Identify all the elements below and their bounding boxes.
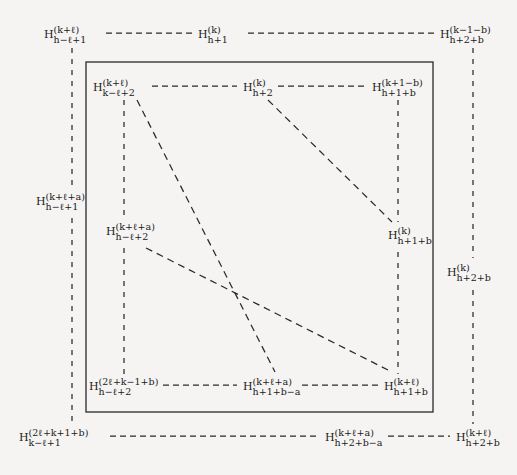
node-outer-top-mid: H(k)h+1 (198, 25, 228, 44)
dashed-diagonal-edges (137, 100, 392, 372)
node-base-symbol: H (106, 225, 116, 238)
node-index-stack: (k+ℓ+a)h−ℓ+2 (116, 222, 155, 241)
node-subscript: k−ℓ+2 (103, 88, 135, 98)
node-subscript: h+1+b−a (253, 387, 301, 397)
node-outer-mid-right: H(k)h+2+b (447, 263, 491, 282)
node-inner-bottom-mid: H(k+ℓ+a)h+1+b−a (243, 377, 300, 396)
commutative-diagram-canvas (0, 0, 517, 475)
node-inner-mid-left: H(k+ℓ+a)h−ℓ+2 (106, 222, 155, 241)
node-base-symbol: H (388, 229, 398, 242)
node-index-stack: (k)h+1+b (398, 226, 432, 245)
node-index-stack: (k+ℓ)h−ℓ+1 (54, 25, 87, 44)
node-inner-top-left: H(k+ℓ)k−ℓ+2 (93, 78, 135, 97)
node-base-symbol: H (325, 431, 335, 444)
node-subscript: h−ℓ+2 (116, 232, 155, 242)
dashed-arrow-diag-topleft-to-bottommid (137, 100, 275, 372)
node-base-symbol: H (89, 380, 99, 393)
node-base-symbol: H (456, 431, 466, 444)
node-index-stack: (k+ℓ+a)h+2+b−a (335, 428, 383, 447)
dashed-arrow-diag-topmid-to-midright (268, 100, 392, 222)
node-subscript: h−ℓ+1 (54, 35, 87, 45)
node-index-stack: (k−1−b)h+2+b (450, 25, 491, 44)
node-inner-bottom-right: H(k+ℓ)h+1+b (384, 377, 428, 396)
node-subscript: h+1+b (394, 387, 428, 397)
node-subscript: h+2+b (466, 438, 500, 448)
node-inner-bottom-left: H(2ℓ+k−1+b)h−ℓ+2 (89, 377, 158, 396)
node-base-symbol: H (447, 266, 457, 279)
node-inner-mid-right: H(k)h+1+b (388, 226, 432, 245)
node-outer-bottom-left: H(2ℓ+k+1+b)k−ℓ+1 (19, 428, 88, 447)
node-index-stack: (2ℓ+k−1+b)h−ℓ+2 (99, 377, 159, 396)
node-subscript: h−ℓ+2 (99, 387, 159, 397)
node-index-stack: (k+ℓ)h+2+b (466, 428, 500, 447)
node-base-symbol: H (384, 380, 394, 393)
node-base-symbol: H (44, 28, 54, 41)
node-base-symbol: H (19, 431, 29, 444)
node-base-symbol: H (372, 81, 382, 94)
dashed-arrow-diag-midleft-to-bottomright (146, 248, 392, 372)
node-base-symbol: H (93, 81, 103, 94)
node-subscript: h+2+b−a (335, 438, 383, 448)
node-index-stack: (k)h+2 (253, 78, 273, 97)
node-subscript: k−ℓ+1 (29, 438, 89, 448)
node-subscript: h+1 (208, 35, 228, 45)
node-subscript: h+2+b (450, 35, 491, 45)
node-subscript: h+1+b (382, 88, 423, 98)
node-base-symbol: H (36, 195, 46, 208)
node-base-symbol: H (243, 380, 253, 393)
node-outer-bottom-right: H(k+ℓ)h+2+b (456, 428, 500, 447)
node-outer-mid-left: H(k+ℓ+a)h−ℓ+1 (36, 192, 85, 211)
node-subscript: h+2+b (457, 273, 491, 283)
node-outer-top-left: H(k+ℓ)h−ℓ+1 (44, 25, 86, 44)
node-index-stack: (k+ℓ)h+1+b (394, 377, 428, 396)
node-base-symbol: H (440, 28, 450, 41)
node-index-stack: (k+ℓ)k−ℓ+2 (103, 78, 135, 97)
node-outer-bottom-mid: H(k+ℓ+a)h+2+b−a (325, 428, 382, 447)
node-index-stack: (k)h+2+b (457, 263, 491, 282)
node-subscript: h+1+b (398, 236, 432, 246)
node-index-stack: (k)h+1 (208, 25, 228, 44)
node-outer-top-right: H(k−1−b)h+2+b (440, 25, 491, 44)
node-subscript: h+2 (253, 88, 273, 98)
node-index-stack: (k+1−b)h+1+b (382, 78, 423, 97)
node-subscript: h−ℓ+1 (46, 202, 85, 212)
node-base-symbol: H (198, 28, 208, 41)
node-inner-top-mid: H(k)h+2 (243, 78, 273, 97)
node-base-symbol: H (243, 81, 253, 94)
node-inner-top-right: H(k+1−b)h+1+b (372, 78, 423, 97)
node-index-stack: (2ℓ+k+1+b)k−ℓ+1 (29, 428, 89, 447)
node-index-stack: (k+ℓ+a)h+1+b−a (253, 377, 301, 396)
node-index-stack: (k+ℓ+a)h−ℓ+1 (46, 192, 85, 211)
